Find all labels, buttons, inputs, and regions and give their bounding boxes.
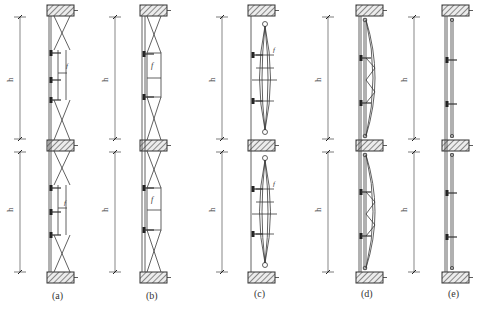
caption-e: (e) xyxy=(448,288,459,300)
floor-slabs xyxy=(47,5,78,283)
height-label: h xyxy=(100,77,110,82)
annotation-f: f xyxy=(151,195,155,204)
height-label: h xyxy=(313,207,323,212)
dimension-line: h h xyxy=(399,15,420,274)
height-label: h xyxy=(5,77,15,82)
panel-e: h h (e) xyxy=(399,5,473,300)
annotation-f: f xyxy=(151,61,155,70)
annotation-f: f xyxy=(273,46,276,54)
curtain-wall-diagram: h h f f (a) xyxy=(0,0,478,310)
dimension-line: h h xyxy=(207,15,228,274)
height-label: h xyxy=(5,207,15,212)
annotation-f: f xyxy=(273,180,276,188)
panel-d: h h (d) xyxy=(313,5,387,300)
annotation-f: f xyxy=(66,62,69,70)
dimension-line: h h xyxy=(313,15,334,274)
caption-a: (a) xyxy=(52,290,63,302)
caption-b: (b) xyxy=(146,290,158,302)
height-label: h xyxy=(100,207,110,212)
caption-c: (c) xyxy=(254,288,265,300)
height-label: h xyxy=(313,77,323,82)
dimension-line: h h xyxy=(100,15,121,274)
panel-b: h h f f (b) xyxy=(100,5,171,302)
height-label: h xyxy=(207,77,217,82)
height-label: h xyxy=(207,207,217,212)
panel-c: h h f f (c) xyxy=(207,5,279,300)
annotation-f: f xyxy=(64,199,67,207)
height-label: h xyxy=(399,77,409,82)
panel-a: h h f f (a) xyxy=(5,5,78,302)
caption-d: (d) xyxy=(361,288,373,300)
dimension-line: h h xyxy=(5,15,26,274)
height-label: h xyxy=(399,207,409,212)
